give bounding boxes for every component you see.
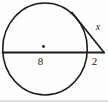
- external-segment-label: 2: [92, 55, 98, 67]
- geometry-figure: 8 2 x: [0, 0, 108, 102]
- circle-tangent-secant-diagram: 8 2 x: [0, 0, 108, 102]
- scan-artifact-edge: [0, 100, 108, 102]
- center-dot: [42, 45, 45, 48]
- tangent-label: x: [95, 21, 101, 32]
- diameter-label: 8: [38, 55, 44, 67]
